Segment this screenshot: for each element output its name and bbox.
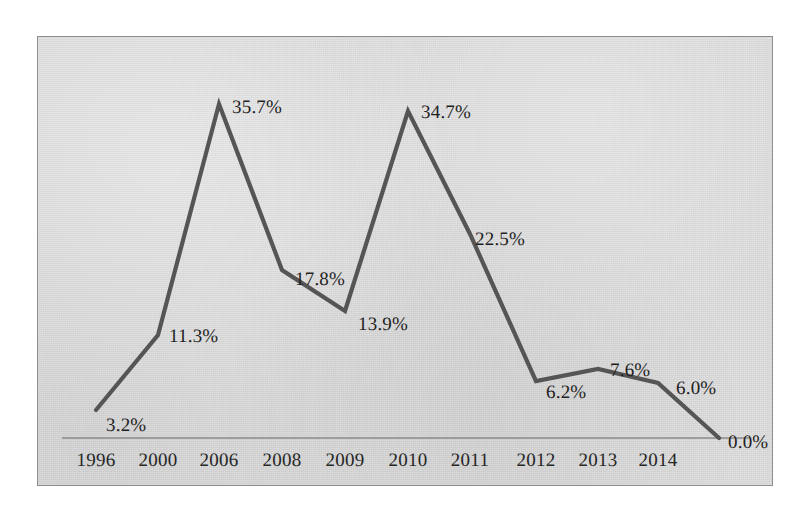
data-series-line (96, 104, 719, 438)
x-axis-tick-label: 2000 (138, 450, 177, 472)
x-axis-tick-label: 2014 (638, 450, 677, 472)
x-axis-tick-label: 2006 (199, 450, 238, 472)
x-axis-tick-label: 2008 (262, 450, 301, 472)
x-axis-tick-label: 2011 (451, 450, 490, 472)
x-axis-tick-label: 1996 (76, 450, 115, 472)
data-point-value-label: 17.8% (295, 269, 345, 291)
page-canvas: 3.2%11.3%35.7%17.8%13.9%34.7%22.5%6.2%7.… (0, 0, 804, 520)
x-axis-tick-label: 2012 (516, 450, 555, 472)
data-point-value-label: 11.3% (169, 326, 218, 348)
data-point-value-label: 22.5% (475, 229, 525, 251)
x-axis-tick-label: 2010 (388, 450, 427, 472)
x-axis-tick-label: 2013 (578, 450, 617, 472)
data-point-value-label: 13.9% (358, 314, 408, 336)
x-axis-tick-label: 2009 (325, 450, 364, 472)
chart-frame: 3.2%11.3%35.7%17.8%13.9%34.7%22.5%6.2%7.… (37, 36, 773, 486)
data-point-value-label: 34.7% (421, 102, 471, 124)
line-chart-plot (38, 37, 773, 486)
data-point-value-label: 6.2% (546, 382, 586, 404)
data-point-value-label: 3.2% (106, 415, 146, 437)
data-point-value-label: 35.7% (232, 97, 282, 119)
data-point-value-label: 7.6% (610, 360, 650, 382)
data-point-value-label: 0.0% (728, 432, 768, 454)
data-point-value-label: 6.0% (676, 378, 716, 400)
